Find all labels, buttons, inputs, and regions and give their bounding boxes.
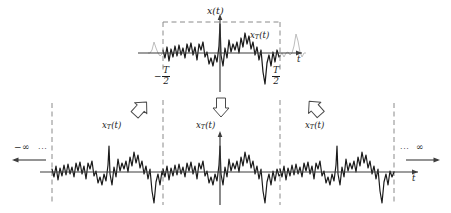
arrow-down-icon	[213, 98, 229, 117]
bottom-panel	[12, 131, 440, 205]
right-bound-denominator: 2	[272, 77, 280, 86]
left-bound-numerator: T	[162, 66, 170, 75]
bottom-period-label-3: xT(t)	[305, 120, 324, 131]
top-signal-label: x(t)	[207, 5, 224, 16]
bottom-period-3-paren: (t)	[314, 120, 324, 130]
plus-infinity-label: ∞	[416, 142, 424, 152]
bottom-value-axis-arrowhead	[218, 131, 223, 137]
top-signal-faded-left	[148, 42, 163, 56]
bottom-period-2-paren: (t)	[205, 120, 215, 130]
right-bound-label: T 2	[272, 66, 280, 86]
bottom-period-label-1: xT(t)	[102, 120, 121, 131]
plus-infinity-arrowhead	[434, 157, 441, 162]
bottom-period-label-2: xT(t)	[196, 120, 215, 131]
figure-periodic-extension: x(t) xT(t) t − T 2 T 2 xT(t) xT(t) xT(t)…	[0, 0, 451, 213]
right-bound-numerator: T	[272, 66, 280, 75]
bottom-period-1-paren: (t)	[111, 120, 121, 130]
left-bound-sign: −	[154, 71, 162, 81]
minus-infinity-label: −∞	[14, 142, 30, 152]
bottom-signal-period-2	[163, 146, 280, 203]
left-ellipsis: ···	[38, 144, 47, 153]
arrow-up-right-icon	[129, 96, 153, 120]
minus-infinity-arrowhead	[12, 157, 19, 162]
top-time-axis-label: t	[297, 54, 300, 64]
arrow-up-left-icon	[303, 96, 327, 120]
bottom-time-axis-label: t	[412, 173, 415, 183]
bottom-signal-period-1	[52, 146, 163, 203]
left-bound-denominator: 2	[162, 77, 170, 86]
period-boundary-guides	[52, 100, 394, 205]
top-windowed-paren: (t)	[259, 30, 269, 40]
left-bound-label: − T 2	[154, 66, 170, 86]
figure-canvas	[0, 0, 451, 213]
top-windowed-signal-label: xT(t)	[250, 30, 269, 41]
right-ellipsis: ···	[400, 144, 409, 153]
bottom-signal-period-3	[280, 146, 394, 203]
